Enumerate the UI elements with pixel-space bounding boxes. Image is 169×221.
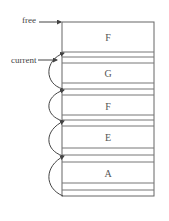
current-label: current xyxy=(11,55,36,65)
free-label: free xyxy=(22,15,36,25)
block-label: E xyxy=(62,132,154,143)
block-label: A xyxy=(62,168,154,179)
block-label: F xyxy=(62,101,154,112)
block-label: F xyxy=(62,32,154,43)
block-label: G xyxy=(62,68,154,79)
